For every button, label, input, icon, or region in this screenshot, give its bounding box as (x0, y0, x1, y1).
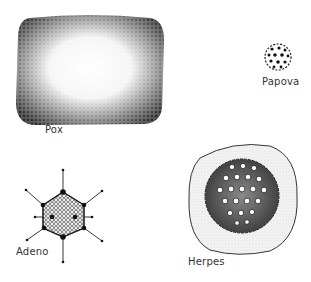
herpes-label: Herpes (188, 256, 225, 267)
papova-label: Papova (262, 76, 299, 87)
virus-morphology-figure: Pox Papova Adeno Herpes (0, 0, 311, 282)
papova-virus (265, 44, 291, 70)
pox-label: Pox (45, 124, 63, 135)
herpes-virus (189, 145, 297, 255)
pox-virus (16, 15, 164, 125)
figure-canvas (0, 0, 311, 282)
adeno-label: Adeno (16, 246, 49, 257)
